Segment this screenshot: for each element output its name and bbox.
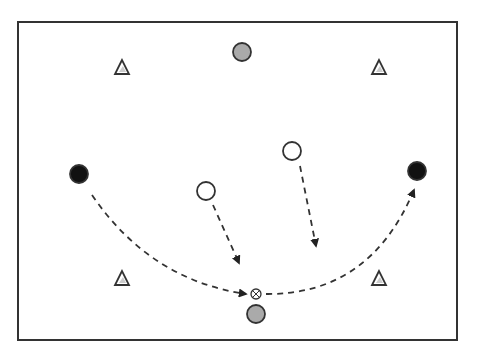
drill-diagram (0, 0, 479, 356)
black-player-right-icon (408, 162, 426, 180)
white-player-right-icon (283, 142, 301, 160)
white-player-left-icon (197, 182, 215, 200)
ball-icon (251, 289, 261, 299)
grey-player-bottom-icon (247, 305, 265, 323)
grey-player-top-icon (233, 43, 251, 61)
black-player-left-icon (70, 165, 88, 183)
